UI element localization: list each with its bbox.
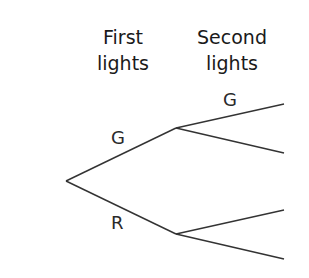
label-first-g: G [111, 127, 125, 148]
branch-second-top-2 [176, 128, 284, 153]
tree-diagram [0, 0, 309, 278]
branch-second-bottom-2 [176, 234, 284, 259]
label-first-r: R [111, 212, 124, 233]
branch-second-bottom-1 [176, 210, 284, 234]
label-second-g: G [223, 89, 237, 110]
